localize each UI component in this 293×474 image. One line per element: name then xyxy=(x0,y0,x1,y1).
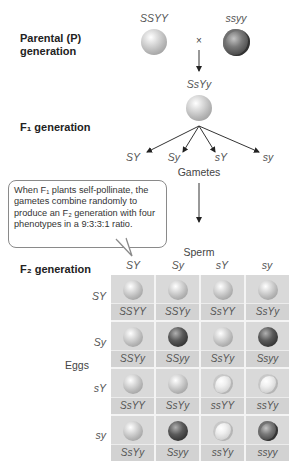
col-header-SY: SY xyxy=(111,259,155,271)
yellow-round-pea-icon xyxy=(168,280,188,300)
yellow-wrinkled-pea-icon xyxy=(258,374,278,394)
yellow-round-pea-icon xyxy=(123,374,143,394)
eggs-title: Eggs xyxy=(60,359,94,371)
punnett-cell: ssyy xyxy=(246,416,289,461)
cross-symbol: × xyxy=(193,35,205,46)
parental-label-line2: generation xyxy=(20,45,81,58)
punnett-cell: SSYy xyxy=(111,322,154,367)
gametes-title: Gametes xyxy=(169,166,229,178)
callout-text: When F₁ plants self-pollinate, the gamet… xyxy=(14,185,155,229)
parent-right-genotype: ssyy xyxy=(216,12,256,24)
parent-left-genotype: SSYY xyxy=(134,12,174,24)
yellow-round-pea-icon xyxy=(213,327,233,347)
punnett-cell: Ssyy xyxy=(156,416,199,461)
punnett-cell: SsYy xyxy=(111,416,154,461)
punnett-cell: Ssyy xyxy=(246,322,289,367)
punnett-cell: SsYy xyxy=(156,369,199,414)
yellow-wrinkled-pea-icon xyxy=(213,421,233,441)
cell-genotype: SsYy xyxy=(246,303,289,320)
gamete-sY: sY xyxy=(211,151,231,163)
cell-genotype: SsYY xyxy=(111,397,154,414)
yellow-wrinkled-pea-icon xyxy=(213,374,233,394)
explanation-callout: When F₁ plants self-pollinate, the gamet… xyxy=(8,180,167,248)
yellow-round-pea-icon xyxy=(123,327,143,347)
f2-generation-label: F₂ generation xyxy=(20,263,91,276)
punnett-cell: ssYY xyxy=(201,369,244,414)
cell-genotype: ssYy xyxy=(246,397,289,414)
yellow-round-pea-icon xyxy=(141,29,167,55)
cell-genotype: SsYy xyxy=(156,397,199,414)
col-header-sY: sY xyxy=(200,259,244,271)
yellow-round-pea-icon xyxy=(258,280,278,300)
punnett-cell: ssYy xyxy=(201,416,244,461)
col-header-sy: sy xyxy=(245,259,289,271)
gamete-SY: SY xyxy=(123,151,143,163)
green-wrinkled-pea-icon xyxy=(258,421,278,441)
cell-genotype: ssYy xyxy=(201,444,244,461)
punnett-cell: SsYY xyxy=(111,369,154,414)
col-header-Sy: Sy xyxy=(156,259,200,271)
green-round-pea-icon xyxy=(168,421,188,441)
f1-generation-label: F₁ generation xyxy=(20,121,91,134)
punnett-cell: ssYy xyxy=(246,369,289,414)
f1-yellow-round-pea-icon xyxy=(186,95,212,121)
yellow-round-pea-icon xyxy=(213,280,233,300)
sperm-title: Sperm xyxy=(174,246,224,258)
cell-genotype: SsYY xyxy=(201,303,244,320)
parental-generation-label: Parental (P) generation xyxy=(20,32,81,58)
punnett-cell: SsYy xyxy=(201,322,244,367)
row-header-sy: sy xyxy=(82,429,106,441)
cell-genotype: SsYy xyxy=(111,444,154,461)
cell-genotype: Ssyy xyxy=(156,444,199,461)
cell-genotype: SSYy xyxy=(156,303,199,320)
punnett-square: SSYY SSYy SsYY SsYy SSYy SSyy SsYy Ssyy … xyxy=(111,275,289,461)
gamete-sy: sy xyxy=(258,151,278,163)
green-round-pea-icon xyxy=(258,327,278,347)
punnett-cell: SsYY xyxy=(201,275,244,320)
cell-genotype: SSYY xyxy=(111,303,154,320)
yellow-round-pea-icon xyxy=(168,374,188,394)
green-round-pea-icon xyxy=(168,327,188,347)
cell-genotype: Ssyy xyxy=(246,350,289,367)
yellow-round-pea-icon xyxy=(123,280,143,300)
cell-genotype: SSYy xyxy=(111,350,154,367)
row-header-Sy: Sy xyxy=(82,336,106,348)
punnett-cell: SsYy xyxy=(246,275,289,320)
punnett-cell: SSyy xyxy=(156,322,199,367)
cell-genotype: SSyy xyxy=(156,350,199,367)
parental-label-line1: Parental (P) xyxy=(20,32,81,45)
punnett-cell: SSYy xyxy=(156,275,199,320)
punnett-cell: SSYY xyxy=(111,275,154,320)
cell-genotype: ssYY xyxy=(201,397,244,414)
cell-genotype: SsYy xyxy=(201,350,244,367)
cell-genotype: ssyy xyxy=(246,444,289,461)
yellow-round-pea-icon xyxy=(123,421,143,441)
gamete-Sy: Sy xyxy=(164,151,184,163)
row-header-sY: sY xyxy=(82,382,106,394)
f1-genotype: SsYy xyxy=(179,78,219,90)
row-header-SY: SY xyxy=(82,290,106,302)
